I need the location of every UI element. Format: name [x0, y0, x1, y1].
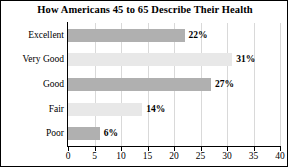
x-axis-tick-label: 10 [106, 151, 136, 161]
category-label: Very Good [1, 53, 64, 66]
x-axis-tick-label: 30 [212, 151, 242, 161]
bar-row: 27% [68, 78, 280, 91]
bar-value-label: 27% [215, 78, 234, 91]
bar[interactable] [68, 127, 100, 140]
bar-value-label: 31% [236, 53, 255, 66]
chart-figure: How Americans 45 to 65 Describe Their He… [0, 0, 288, 167]
bar[interactable] [68, 53, 232, 66]
category-label: Fair [1, 103, 64, 116]
plot-area: 22%31%27%14%6% [68, 23, 280, 146]
category-label: Poor [1, 127, 64, 140]
x-axis-tick-label: 25 [186, 151, 216, 161]
x-axis-tick-label: 15 [133, 151, 163, 161]
bar-row: 14% [68, 103, 280, 116]
bar[interactable] [68, 78, 211, 91]
bar-row: 6% [68, 127, 280, 140]
bar[interactable] [68, 103, 142, 116]
x-axis-tick-label: 20 [159, 151, 189, 161]
x-axis-tick-label: 40 [265, 151, 288, 161]
x-axis-tick-label: 35 [239, 151, 269, 161]
bar-value-label: 6% [104, 127, 118, 140]
x-axis-tick-label: 0 [53, 151, 83, 161]
bar-value-label: 22% [189, 29, 208, 42]
category-label: Good [1, 78, 64, 91]
bar-value-label: 14% [146, 103, 165, 116]
category-axis-labels: ExcellentVery GoodGoodFairPoor [1, 23, 64, 146]
bar[interactable] [68, 29, 185, 42]
category-label: Excellent [1, 29, 64, 42]
bar-row: 31% [68, 53, 280, 66]
gridline [280, 23, 281, 146]
bar-row: 22% [68, 29, 280, 42]
chart-title: How Americans 45 to 65 Describe Their He… [1, 4, 288, 15]
x-axis-tick-label: 5 [80, 151, 110, 161]
